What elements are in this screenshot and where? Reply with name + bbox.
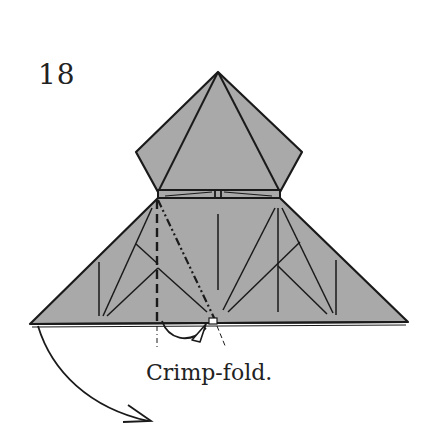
swing-arrow [38,326,151,422]
instruction-caption: Crimp-fold. [146,360,272,385]
head-pentagon [136,72,302,192]
body-trapezoid [30,198,408,327]
junction-strip [158,190,280,198]
